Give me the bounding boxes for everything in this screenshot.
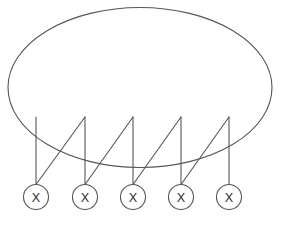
node-5: X: [217, 185, 242, 210]
node-3: X: [121, 185, 146, 210]
diagram-canvas: XXXXX: [0, 0, 291, 229]
node-label: X: [225, 190, 234, 205]
diagonal-edge-2: [36, 117, 85, 185]
node-label: X: [177, 190, 186, 205]
plate-ellipse: [8, 8, 272, 168]
node-label: X: [81, 190, 90, 205]
node-2: X: [73, 185, 98, 210]
diagonal-edge-3: [85, 117, 133, 185]
node-label: X: [129, 190, 138, 205]
diagonal-edge-4: [133, 117, 181, 185]
node-label: X: [32, 190, 41, 205]
node-4: X: [169, 185, 194, 210]
node-1: X: [24, 185, 49, 210]
